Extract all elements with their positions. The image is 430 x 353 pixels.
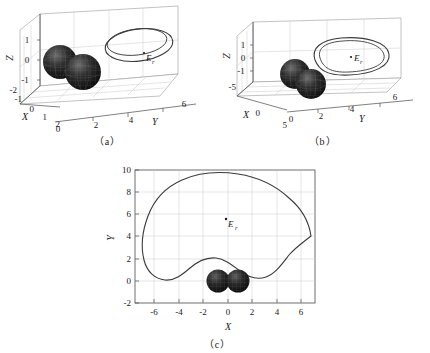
y-tick-c-1: 0 bbox=[127, 276, 132, 286]
y-tick-c-0: -2 bbox=[124, 298, 132, 308]
z-tick-a-0: 1 bbox=[25, 35, 30, 45]
panel-c: E r 10 8 6 bbox=[100, 158, 335, 353]
axis-y-c-label: Y bbox=[105, 234, 116, 241]
annotation-er-b-label: E bbox=[353, 53, 360, 63]
axis-x-a-label: X bbox=[21, 111, 29, 122]
axis-x-c-label: X bbox=[224, 321, 232, 332]
sphere-right-b bbox=[296, 69, 326, 99]
panel-c-caption: （c） bbox=[100, 336, 335, 351]
axis-z-b-label: Z bbox=[221, 53, 232, 59]
z-tick-b-1: 0 bbox=[241, 53, 246, 63]
y-tick-b-2: 4 bbox=[350, 104, 355, 114]
z-tick-b-0: 1 bbox=[241, 40, 246, 50]
sphere-right-a bbox=[65, 54, 101, 90]
panel-b: E r 1 0 -1 bbox=[215, 0, 430, 160]
y-tick-b-0: 0 bbox=[289, 114, 294, 124]
y-tick-b-3: 6 bbox=[393, 92, 398, 102]
z-tick-b-2: -1 bbox=[237, 66, 245, 76]
x-tick-b-0: -5 bbox=[229, 82, 237, 92]
axis-x-c: -6 -4 -2 0 2 4 6 X bbox=[150, 299, 304, 332]
axis-y-a-label: Y bbox=[152, 116, 159, 127]
y-tick-c-3: 4 bbox=[127, 231, 132, 241]
panel-b-caption: （b） bbox=[215, 133, 430, 148]
axes-panes-a bbox=[20, 6, 178, 104]
x-tick-c-6: 6 bbox=[299, 307, 304, 317]
panel-a-caption: （a） bbox=[0, 133, 215, 148]
figure-root: E r 1 0 bbox=[0, 0, 430, 353]
annotation-er-a-label: E bbox=[145, 53, 152, 63]
axis-y-b-label: Y bbox=[359, 113, 366, 124]
axis-y-a: 0 2 4 6 Y bbox=[55, 99, 196, 134]
y-tick-b-1: 2 bbox=[319, 111, 324, 121]
y-tick-c-2: 2 bbox=[127, 254, 132, 264]
z-tick-a-1: 0 bbox=[25, 55, 30, 65]
y-tick-a-1: 2 bbox=[94, 120, 99, 130]
y-tick-a-3: 6 bbox=[182, 99, 187, 109]
y-tick-c-6: 10 bbox=[122, 165, 132, 175]
panel-c-plot: E r 10 8 6 bbox=[100, 158, 335, 353]
x-tick-c-1: -4 bbox=[175, 307, 183, 317]
sphere-right-c bbox=[227, 270, 250, 293]
axis-z-a-label: Z bbox=[4, 55, 15, 61]
x-tick-a-1: -1 bbox=[15, 94, 23, 104]
axis-x-b-label: X bbox=[242, 109, 250, 120]
panel-a: E r 1 0 bbox=[0, 0, 215, 160]
x-tick-c-0: -6 bbox=[150, 307, 158, 317]
x-tick-c-5: 4 bbox=[275, 307, 280, 317]
y-tick-a-2: 4 bbox=[129, 115, 134, 125]
annotation-er-c-label: E bbox=[227, 219, 234, 229]
x-tick-a-3: 1 bbox=[43, 112, 48, 122]
z-tick-a-2: -1 bbox=[21, 75, 29, 85]
x-tick-c-4: 2 bbox=[250, 307, 255, 317]
x-tick-c-2: -2 bbox=[199, 307, 207, 317]
y-tick-c-5: 8 bbox=[127, 187, 132, 197]
x-tick-b-1: 0 bbox=[256, 108, 261, 118]
axis-y-c: 10 8 6 4 2 0 -2 Y bbox=[105, 165, 139, 308]
y-tick-c-4: 6 bbox=[127, 209, 132, 219]
x-tick-c-3: 0 bbox=[226, 307, 231, 317]
sphere-left-c bbox=[207, 270, 230, 293]
x-tick-a-2: 0 bbox=[30, 104, 35, 114]
x-tick-b-2: 5 bbox=[283, 120, 288, 130]
